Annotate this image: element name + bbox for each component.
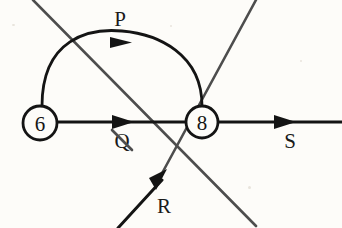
edge-arc-p-arrowhead — [110, 37, 132, 48]
edge-line-r-arrowhead — [149, 169, 167, 190]
crossing-line-southwest-northeast-upper — [160, 0, 256, 177]
edge-line-s-arrowhead — [274, 115, 296, 129]
edge-label-r: R — [157, 194, 171, 218]
edge-arc-p[interactable] — [42, 31, 202, 106]
diagram-svg: 6 8 P Q R S — [0, 0, 342, 228]
edge-label-p: P — [114, 7, 126, 31]
node-circle-6-label: 6 — [35, 112, 46, 136]
edge-line-q-arrowhead — [112, 115, 134, 129]
node-circle-8[interactable]: 8 — [186, 106, 218, 138]
edge-label-s: S — [284, 129, 296, 153]
node-circle-6[interactable]: 6 — [23, 106, 57, 140]
edge-line-q[interactable] — [57, 115, 187, 129]
edge-line-s[interactable] — [218, 115, 342, 129]
diagram-canvas: 6 8 P Q R S — [0, 0, 342, 228]
node-circle-8-label: 8 — [197, 111, 208, 135]
